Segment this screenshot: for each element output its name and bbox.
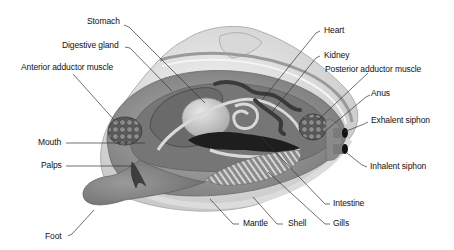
clam-anatomy-diagram: Stomach Digestive gland Anterior adducto… — [0, 0, 454, 250]
label-mouth: Mouth — [38, 137, 61, 147]
label-kidney: Kidney — [324, 50, 349, 60]
label-digestive-gland: Digestive gland — [62, 40, 119, 50]
anterior-adductor-muscle — [108, 117, 142, 145]
label-inhalent-siphon: Inhalent siphon — [370, 161, 426, 171]
label-anus: Anus — [371, 88, 390, 98]
label-palps: Palps — [41, 160, 62, 170]
label-shell: Shell — [288, 218, 306, 228]
label-heart: Heart — [324, 25, 344, 35]
label-posterior-adductor-muscle: Posterior adductor muscle — [325, 64, 421, 74]
label-foot: Foot — [45, 231, 62, 241]
posterior-adductor-muscle — [299, 114, 327, 140]
label-gills: Gills — [333, 218, 349, 228]
label-stomach: Stomach — [87, 16, 120, 26]
label-anterior-adductor-muscle: Anterior adductor muscle — [21, 62, 113, 72]
label-intestine: Intestine — [333, 198, 364, 208]
label-mantle: Mantle — [243, 218, 268, 228]
label-exhalent-siphon: Exhalent siphon — [371, 115, 430, 125]
clam-illustration — [0, 0, 454, 250]
